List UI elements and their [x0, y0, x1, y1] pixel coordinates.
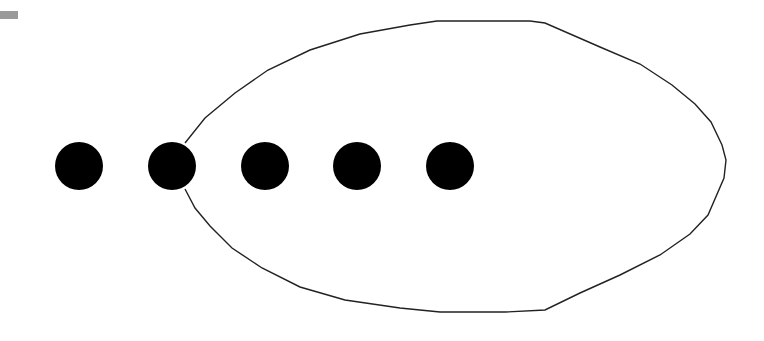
diagram-canvas [0, 0, 764, 341]
dot-1 [55, 142, 103, 190]
dot-3 [241, 142, 289, 190]
dot-row [55, 142, 474, 190]
dot-4 [333, 142, 381, 190]
dot-5 [426, 142, 474, 190]
dot-2 [148, 142, 196, 190]
